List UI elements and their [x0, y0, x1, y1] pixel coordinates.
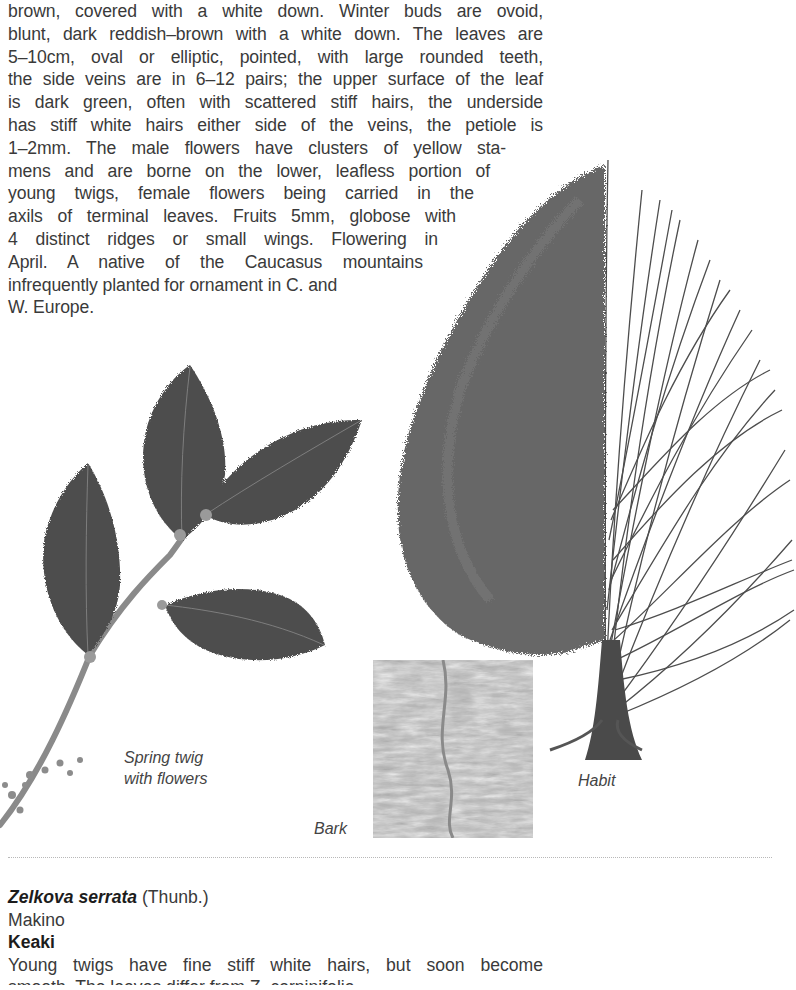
description-line: has stiff white hairs either side of the…	[8, 114, 543, 137]
entry-text-line-partial: smooth. The leaves differ from Z. carpin…	[8, 976, 548, 985]
twig-caption-line: with flowers	[124, 768, 208, 789]
scientific-name: Zelkova serrata	[8, 887, 137, 907]
description-line: 4 distinct ridges or small wings. Flower…	[8, 228, 438, 251]
entry-text-line: Young twigs have fine stiff white hairs,…	[8, 954, 543, 977]
twig-caption: Spring twig with flowers	[124, 747, 208, 789]
common-name: Keaki	[8, 931, 548, 954]
description-line: April. A native of the Caucasus mountain…	[8, 251, 423, 274]
author-citation-cont: Makino	[8, 909, 548, 932]
description-line: 1–2mm. The male flowers have clusters of…	[8, 137, 506, 160]
author-citation: (Thunb.)	[137, 887, 208, 907]
bark-illustration	[373, 660, 533, 838]
habit-caption: Habit	[578, 770, 615, 791]
description-line: the side veins are in 6–12 pairs; the up…	[8, 68, 543, 91]
section-divider	[8, 857, 772, 858]
twig-caption-line: Spring twig	[124, 747, 208, 768]
species-entry-zelkova-serrata: Zelkova serrata (Thunb.) Makino Keaki Yo…	[8, 886, 548, 985]
description-line: 5–10cm, oval or elliptic, pointed, with …	[8, 46, 543, 69]
description-line: is dark green, often with scattered stif…	[8, 91, 543, 114]
description-line: blunt, dark reddish–brown with a white d…	[8, 23, 543, 46]
bark-caption: Bark	[314, 818, 347, 839]
description-line: brown, covered with a white down. Winter…	[8, 0, 543, 23]
